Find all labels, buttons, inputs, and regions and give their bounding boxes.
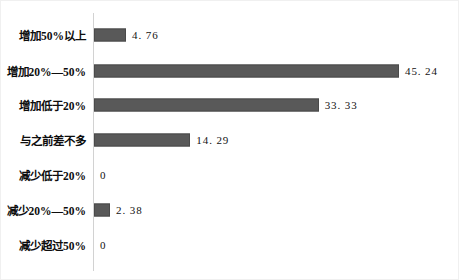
value-label-3: 14. 29 — [196, 134, 229, 146]
bar-track — [94, 29, 126, 42]
category-label: 减少低于20% — [19, 167, 93, 183]
bar-track — [94, 99, 319, 112]
category-label: 增加低于20% — [19, 97, 93, 113]
category-label: 减少20%—50% — [7, 202, 94, 218]
value-label-6: 0 — [100, 239, 106, 251]
bar-row: 增加低于20% 33. 33 — [1, 88, 459, 122]
bar-row: 与之前差不多 14. 29 — [1, 123, 459, 157]
category-label: 减少超过50% — [19, 237, 93, 253]
value-label-0: 4. 76 — [132, 29, 159, 41]
value-label-5: 2. 38 — [116, 204, 143, 216]
bar-3 — [94, 134, 190, 147]
plot-area: 增加50%以上 4. 76 增加20%—50% 45. 24 增加低于20% 3… — [1, 1, 459, 280]
bar-row: 减少超过50% 0 — [1, 228, 459, 262]
bar-track — [94, 134, 190, 147]
bar-5 — [94, 204, 110, 217]
value-label-4: 0 — [100, 169, 106, 181]
value-label-1: 45. 24 — [405, 65, 438, 77]
bar-row: 减少20%—50% 2. 38 — [1, 193, 459, 227]
bar-track — [94, 204, 110, 217]
bar-0 — [94, 29, 126, 42]
bar-1 — [94, 65, 399, 78]
bar-row: 减少低于20% 0 — [1, 158, 459, 192]
category-label: 增加50%以上 — [19, 27, 93, 43]
bar-track — [94, 65, 399, 78]
bar-2 — [94, 99, 319, 112]
category-label: 与之前差不多 — [20, 132, 93, 148]
bar-row: 增加50%以上 4. 76 — [1, 18, 459, 52]
category-label: 增加20%—50% — [7, 63, 94, 79]
bar-row: 增加20%—50% 45. 24 — [1, 54, 459, 88]
horizontal-bar-chart: 增加50%以上 4. 76 增加20%—50% 45. 24 增加低于20% 3… — [0, 0, 459, 280]
value-label-2: 33. 33 — [325, 99, 358, 111]
